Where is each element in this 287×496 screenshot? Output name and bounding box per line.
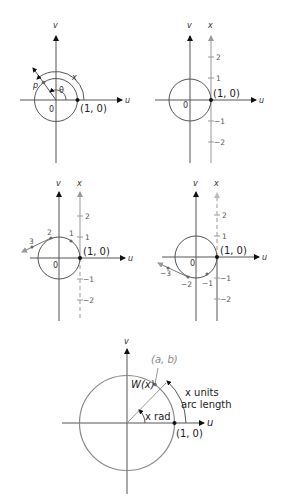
tick-label-2: 2 (85, 212, 90, 221)
arc-label-line-2: arc length (181, 399, 232, 410)
point-label: (1, 0) (213, 88, 240, 99)
tick-label-neg1: −1 (83, 275, 94, 284)
x-arc-label: x (71, 73, 77, 82)
x-arrowhead (214, 192, 220, 198)
ab-label: (a, b) (151, 354, 178, 365)
tick-label-1: 1 (222, 232, 227, 241)
point-1-0 (78, 256, 82, 260)
wrap-label-1: 1 (69, 229, 74, 238)
v-label: v (53, 21, 58, 30)
origin-label: 0 (53, 261, 58, 270)
v-label: v (193, 179, 198, 188)
wrap-label-2: 2 (47, 228, 52, 237)
point-p (42, 81, 46, 85)
u-label: u (259, 96, 264, 105)
panel-5-wrapping-function: v u (1, 0) (a, b) W(x) x rad x units arc… (62, 337, 232, 494)
panel-3-positive-wrap: 2 1 −1 −2 1 2 3 v x u 0 (1, 0) (22, 179, 133, 321)
x-label: x (207, 21, 213, 30)
unit-circle-diagrams: v u 0 (1, 0) p θ x 2 1 −1 −2 v x u 0 (1,… (0, 0, 287, 496)
tick-label-1: 1 (216, 74, 221, 83)
u-label: u (125, 96, 130, 105)
panel-4-negative-wrap: 2 1 −1 −2 −1 −2 −3 v x u 0 (1, 0) (158, 179, 267, 321)
origin-label: 0 (190, 259, 195, 268)
tick-label-2: 2 (216, 53, 221, 62)
arc-label-line-1: x units (185, 387, 219, 398)
point-1-0 (215, 255, 219, 259)
p-label: p (32, 81, 38, 90)
origin-label: 0 (49, 105, 54, 114)
wrap-tangent-line (22, 238, 51, 252)
tick-label-neg1: −1 (214, 117, 225, 126)
w-x-label: W(x) (131, 379, 155, 390)
tick-label-1: 1 (85, 233, 90, 242)
point-label: (1, 0) (220, 245, 247, 256)
panel-2-number-line: 2 1 −1 −2 v x u 0 (1, 0) (155, 21, 264, 163)
wrap-label-neg1: −1 (202, 279, 213, 288)
u-label: u (262, 253, 267, 262)
tick-label-2: 2 (222, 211, 227, 220)
wrap-point-1 (70, 240, 73, 243)
wrap-label-neg2: −2 (181, 280, 192, 289)
wrap-point-neg1 (206, 273, 209, 276)
v-label: v (124, 337, 129, 346)
angle-label: x rad (145, 411, 171, 422)
ab-leader-line (155, 368, 158, 384)
wrap-label-neg3: −3 (160, 269, 171, 278)
tick-label-neg2: −2 (214, 138, 225, 147)
theta-label: θ (59, 86, 64, 95)
tick-label-neg1: −1 (220, 274, 231, 283)
origin-label: 0 (183, 101, 188, 110)
panel-1-angle-theta: v u 0 (1, 0) p θ x (20, 21, 130, 163)
point-label: (1, 0) (83, 246, 110, 257)
point-label: (1, 0) (176, 428, 203, 439)
point-1-0 (173, 421, 177, 425)
u-label: u (207, 417, 213, 428)
x-label: x (213, 179, 219, 188)
x-label: x (76, 179, 82, 188)
v-label: v (187, 21, 192, 30)
u-label: u (128, 254, 133, 263)
point-1-0 (76, 98, 80, 102)
v-label: v (56, 179, 61, 188)
wrap-point-neg2 (187, 276, 190, 279)
wrap-label-3: 3 (29, 237, 34, 246)
point-label: (1, 0) (80, 103, 107, 114)
tick-label-neg2: −2 (220, 295, 231, 304)
tick-label-neg2: −2 (83, 296, 94, 305)
